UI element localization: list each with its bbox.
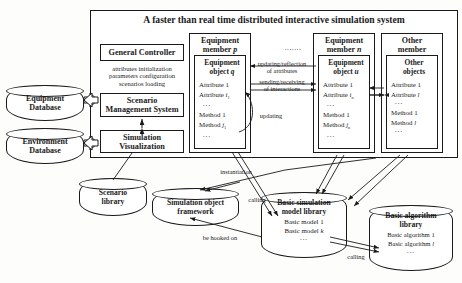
member-p-attribute-1: Attribute 1 bbox=[199, 81, 229, 88]
simulation-visualization-box: Simulation Visualization bbox=[100, 130, 184, 153]
member-n-index: n bbox=[357, 45, 361, 54]
sim-object-framework-line1: Simulation object bbox=[167, 198, 224, 207]
other-member-title-line2: member bbox=[398, 45, 426, 54]
updating-reflection-line2: of attributes bbox=[251, 67, 313, 74]
other-method-ellipsis: ... bbox=[395, 126, 403, 133]
calling-other-to-models-2 bbox=[354, 155, 408, 206]
member-p-attribute-ellipsis: ... bbox=[203, 100, 211, 107]
diagram-canvas: A faster than real time distributed inte… bbox=[0, 0, 462, 283]
basic-model-library-line1: Basic simulation bbox=[277, 198, 330, 207]
equipment-member-p-title-line2: member p bbox=[203, 45, 237, 54]
basic-simulation-model-library: Basic simulation model library Basic mod… bbox=[261, 192, 347, 258]
equipment-database: Equipment Database bbox=[6, 85, 84, 121]
other-objects-line2: objects bbox=[391, 67, 437, 76]
system-title: A faster than real time distributed inte… bbox=[96, 15, 452, 26]
instantiation-source-line bbox=[285, 158, 376, 170]
scenario-library-line1: Scenario bbox=[99, 188, 127, 197]
controller-note-line2: parameters configuration bbox=[98, 72, 186, 79]
other-attribute-l: Attribute l bbox=[391, 91, 420, 98]
basic-model-1: Basic model 1 bbox=[284, 218, 323, 225]
equipment-object-u: Equipment object u Attribute 1 Attribute… bbox=[318, 55, 370, 149]
scenario-library: Scenario library bbox=[79, 178, 147, 216]
sending-receiving-label: sending/receiving of interactions bbox=[251, 78, 313, 92]
controller-note: attributes initialization parameters con… bbox=[98, 65, 186, 87]
equipment-object-q-line2: object q bbox=[199, 67, 245, 76]
basic-model-k: Basic model k bbox=[284, 227, 323, 234]
basic-algorithm-ellipsis: ... bbox=[407, 247, 415, 254]
calling-member-n-to-models bbox=[316, 155, 337, 194]
equipment-object-u-line2: object u bbox=[323, 67, 369, 76]
calling-other-to-models bbox=[348, 155, 400, 200]
controller-note-line1: attributes initialization bbox=[98, 65, 186, 72]
other-attribute-1: Attribute 1 bbox=[391, 81, 421, 88]
member-p-title-word: member bbox=[203, 45, 231, 54]
updating-reflection-label: updating/reflection of attributes bbox=[251, 60, 313, 74]
scenario-management-line2: Management System bbox=[106, 105, 179, 114]
other-method-l: Method l bbox=[391, 119, 416, 126]
equipment-member-p-title-line1: Equipment bbox=[201, 36, 239, 45]
member-p-index: p bbox=[233, 45, 237, 54]
simulation-visualization-line1: Simulation bbox=[123, 133, 161, 142]
other-attribute-ellipsis: ... bbox=[395, 98, 403, 105]
basic-algorithm-library-line1: Basic algorithm bbox=[385, 211, 436, 220]
scenario-library-line2: library bbox=[102, 197, 125, 206]
basic-algorithm-library-line2: library bbox=[400, 220, 423, 229]
basic-model-library-line2: model library bbox=[282, 207, 327, 216]
be-hooked-on-label: be hooked on bbox=[193, 234, 247, 241]
calling-member-n-to-models-2 bbox=[322, 155, 344, 194]
equipment-member-n-title-line1: Equipment bbox=[325, 36, 363, 45]
sending-receiving-line2: of interactions bbox=[251, 85, 313, 92]
member-p-method-j: Method j1 bbox=[199, 121, 226, 130]
basic-algorithm-library: Basic algorithm library Basic algorithm … bbox=[369, 205, 453, 271]
member-p-attribute-i: Attribute i1 bbox=[199, 91, 230, 100]
basic-algorithm-l: Basic algorithm l bbox=[388, 240, 434, 247]
equipment-object-q: Equipment object q Attribute 1 Attribute… bbox=[194, 55, 246, 149]
other-method-1: Method 1 bbox=[391, 109, 418, 116]
member-p-method-1: Method 1 bbox=[199, 111, 226, 118]
equipment-database-line2: Database bbox=[29, 103, 61, 112]
other-objects: Other objects Attribute 1 Attribute l ..… bbox=[386, 55, 438, 149]
calling-upper-label: calling bbox=[241, 196, 273, 203]
members-ellipsis: ....... bbox=[272, 44, 314, 52]
member-n-attribute-1: Attribute 1 bbox=[323, 81, 353, 88]
member-n-method-j: Method jn bbox=[323, 121, 350, 130]
other-member-title-line1: Other bbox=[402, 36, 422, 45]
basic-algorithm-1: Basic algorithm 1 bbox=[387, 231, 435, 238]
member-n-method-1: Method 1 bbox=[323, 111, 350, 118]
member-n-title-word: member bbox=[327, 45, 355, 54]
equipment-object-q-line1: Equipment bbox=[199, 58, 245, 67]
sim-object-framework-line2: framework bbox=[177, 207, 213, 216]
general-controller-box: General Controller bbox=[100, 44, 184, 61]
equipment-database-line1: Equipment bbox=[26, 94, 64, 103]
simulation-visualization-line2: Visualization bbox=[119, 142, 165, 151]
member-n-attribute-i: Attribute in bbox=[323, 91, 354, 100]
scenario-management-line1: Scenario bbox=[127, 96, 157, 105]
sending-receiving-line1: sending/receiving bbox=[251, 78, 313, 85]
updating-reflection-line1: updating/reflection bbox=[251, 60, 313, 67]
equipment-member-n-title-line2: member n bbox=[327, 45, 362, 54]
member-n-method-ellipsis: ... bbox=[327, 131, 335, 138]
object-u-index: u bbox=[355, 67, 359, 76]
basic-model-ellipsis: ... bbox=[300, 234, 308, 241]
member-n-attribute-ellipsis: ... bbox=[327, 100, 335, 107]
object-u-word: object bbox=[333, 67, 352, 76]
equipment-object-u-line1: Equipment bbox=[323, 58, 369, 67]
updating-label: updating bbox=[253, 112, 289, 119]
member-p-method-ellipsis: ... bbox=[203, 131, 211, 138]
environment-database-line1: Environment bbox=[22, 137, 67, 146]
environment-database-line2: Database bbox=[29, 146, 61, 155]
object-q-index: q bbox=[231, 67, 235, 76]
general-controller-label: General Controller bbox=[109, 48, 176, 57]
calling-lower-label: calling bbox=[340, 253, 372, 260]
controller-note-line3: scenarios loading bbox=[98, 80, 186, 87]
simulation-object-framework: Simulation object framework bbox=[152, 188, 239, 226]
object-q-word: object bbox=[210, 67, 229, 76]
environment-database: Environment Database bbox=[6, 128, 84, 164]
scenario-management-system-box: Scenario Management System bbox=[100, 93, 184, 117]
instantiation-label: instantiation bbox=[210, 168, 262, 175]
other-objects-line1: Other bbox=[391, 58, 437, 67]
